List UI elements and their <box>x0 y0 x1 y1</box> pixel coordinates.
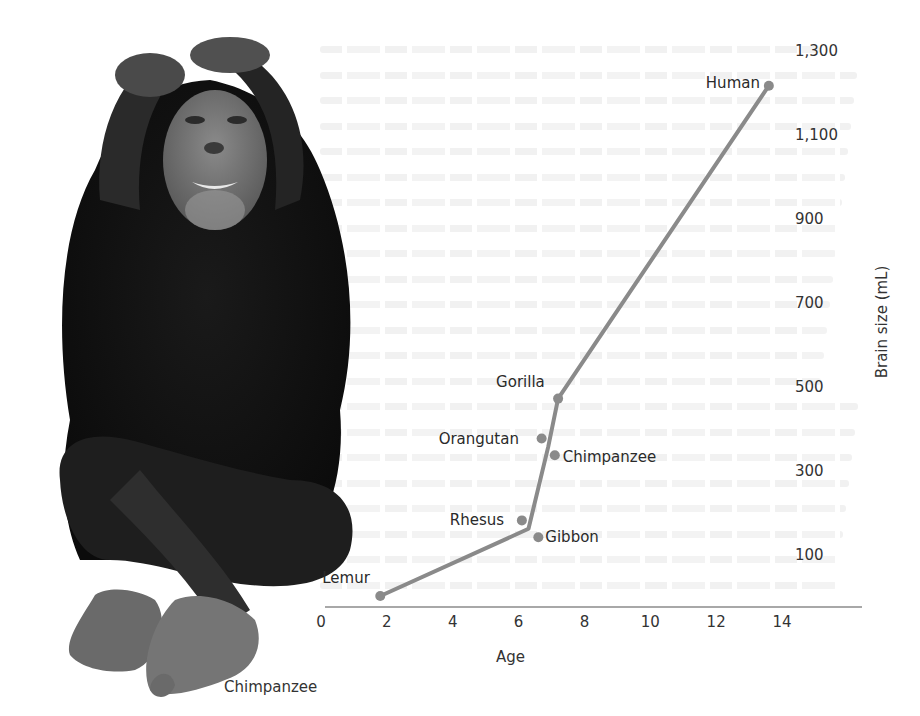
point-label-lemur: Lemur <box>322 569 370 587</box>
point-label-human: Human <box>706 74 760 92</box>
y-tick-label: 500 <box>795 378 824 396</box>
point-label-chimpanzee: Chimpanzee <box>563 448 656 466</box>
data-point-human <box>764 81 774 91</box>
x-tick-label: 8 <box>580 613 590 631</box>
y-tick-label: 1,300 <box>795 42 838 60</box>
y-tick-label: 900 <box>795 210 824 228</box>
x-tick-label: 6 <box>514 613 524 631</box>
data-point-lemur <box>375 591 385 601</box>
y-tick-label: 700 <box>795 294 824 312</box>
y-tick-label: 1,100 <box>795 126 838 144</box>
x-tick-label: 12 <box>707 613 726 631</box>
x-tick-label: 14 <box>772 613 791 631</box>
point-label-orangutan: Orangutan <box>439 430 519 448</box>
y-tick-label: 100 <box>795 546 824 564</box>
data-point-chimpanzee <box>550 450 560 460</box>
point-label-rhesus: Rhesus <box>450 511 504 529</box>
data-point-gorilla <box>553 394 563 404</box>
data-line <box>380 86 769 596</box>
data-point-rhesus <box>517 515 527 525</box>
x-tick-label: 10 <box>641 613 660 631</box>
y-tick-label: 300 <box>795 462 824 480</box>
y-axis-title: Brain size (mL) <box>873 266 891 379</box>
x-tick-label: 2 <box>382 613 392 631</box>
x-tick-label: 0 <box>316 613 326 631</box>
data-points <box>375 81 774 601</box>
x-axis-title: Age <box>496 648 525 666</box>
point-label-gorilla: Gorilla <box>496 373 545 391</box>
x-tick-label: 4 <box>448 613 458 631</box>
data-point-orangutan <box>537 434 547 444</box>
data-point-gibbon <box>533 532 543 542</box>
point-label-gibbon: Gibbon <box>545 528 599 546</box>
brain-size-chart <box>0 0 920 716</box>
